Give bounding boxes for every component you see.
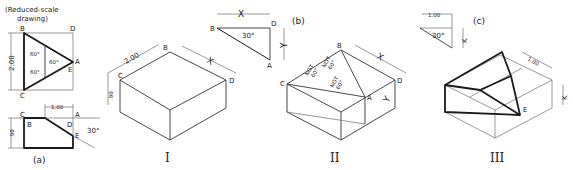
label-II: II: [330, 151, 340, 165]
point-D-b: D: [271, 20, 276, 28]
point-E-front: E: [75, 132, 79, 140]
dim-X-b: X: [238, 9, 244, 19]
point-A-top: A: [75, 58, 80, 66]
angle-30-a: 30°: [87, 127, 99, 135]
point-A-II: A: [367, 94, 372, 102]
dim-90-I: .90: [108, 91, 114, 100]
view-I: 2.00 X .90 B C D I: [108, 44, 236, 165]
dim-1-00-III: 1.00: [527, 56, 541, 68]
technical-drawing: (Reduced-scale drawing) 2.00 B D C A E 6…: [0, 0, 573, 170]
dim-90-a: .90: [9, 129, 15, 138]
solid-outline: [445, 52, 520, 115]
angle-30-c: 30°: [432, 32, 444, 40]
point-C-I: C: [118, 72, 123, 80]
caption-line-1: (Reduced-scale: [5, 6, 59, 14]
angle-60-3: 60°: [30, 69, 40, 75]
dim-1-00-c: 1.00: [428, 12, 441, 18]
point-C-II: C: [280, 80, 285, 88]
label-c: (c): [473, 16, 485, 26]
part-a: (Reduced-scale drawing) 2.00 B D C A E 6…: [5, 6, 100, 165]
label-III: III: [490, 151, 504, 165]
point-D-top: D: [70, 25, 75, 33]
dim-K-c: K: [461, 38, 469, 43]
dim-X-I: X: [205, 55, 215, 67]
point-B-b: B: [210, 25, 215, 33]
point-C-top: C: [20, 92, 25, 100]
dim-2-00: 2.00: [8, 55, 16, 71]
label-I: I: [165, 151, 170, 165]
point-D-I: D: [229, 77, 234, 85]
label-a: (a): [33, 155, 46, 165]
part-c: 1.00 K 30° (c): [420, 12, 485, 48]
angle-60-1: 60°: [30, 51, 40, 57]
point-D-front: D: [67, 121, 72, 129]
view-III: 1.00 K E III: [445, 52, 569, 165]
point-E-top: E: [68, 66, 72, 74]
dim-1-00-a: 1.00: [51, 104, 64, 110]
part-b: X Y B D A 30° (b): [210, 9, 305, 70]
dim-K-III: K: [561, 95, 569, 100]
point-E-III: E: [523, 106, 527, 114]
point-B-front: B: [27, 121, 32, 129]
dim-Y-b: Y: [279, 42, 289, 49]
dim-Y-II: Y: [381, 94, 393, 105]
point-C-front: C: [20, 111, 25, 119]
view-II: X Y NOT 60° NOT 60° NOT 60° B C D A II: [280, 42, 406, 165]
caption-line-2: drawing): [17, 15, 48, 23]
dim-2-00-I: 2.00: [123, 51, 141, 66]
point-B-II: B: [337, 42, 342, 50]
angle-60-2: 60°: [49, 59, 59, 65]
point-B-I: B: [163, 44, 168, 52]
point-A-b: A: [267, 62, 272, 70]
point-B-top: B: [20, 25, 25, 33]
point-D-II: D: [397, 77, 402, 85]
angle-30-b: 30°: [242, 32, 254, 40]
label-b: (b): [292, 16, 305, 26]
point-A-front: A: [75, 111, 80, 119]
